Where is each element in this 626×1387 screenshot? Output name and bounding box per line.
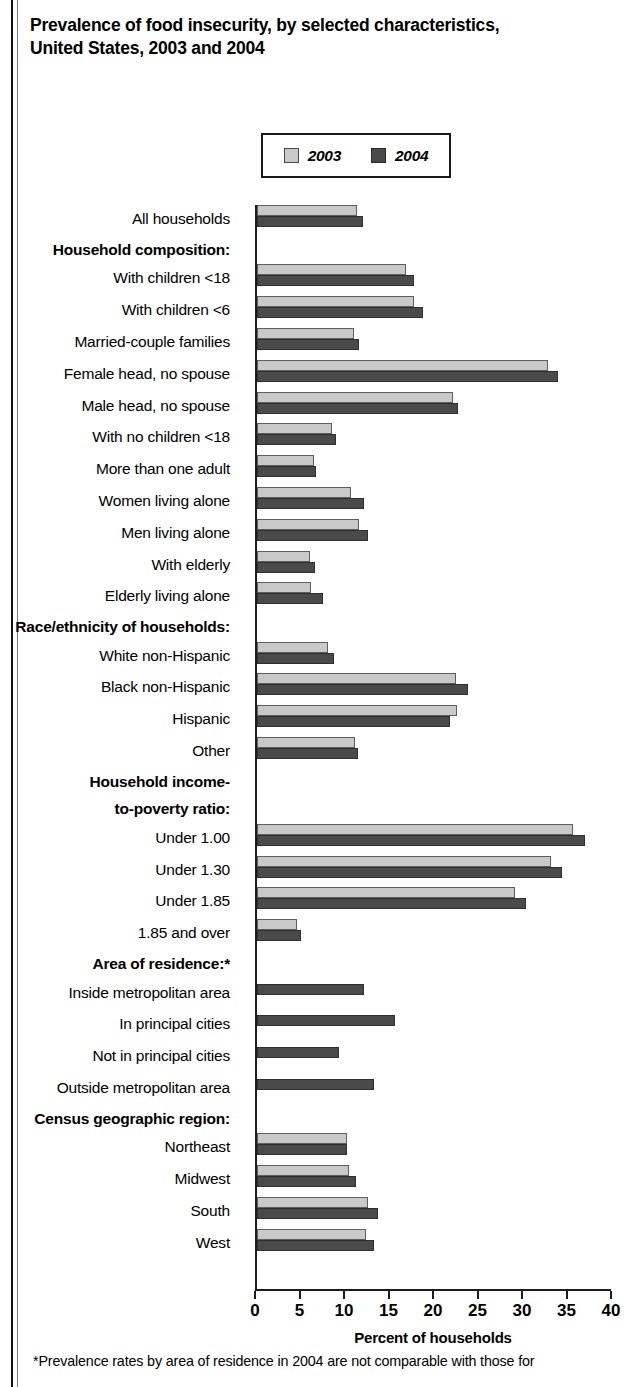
chart-section-header-label: Household income- — [0, 773, 230, 791]
chart-bar-2004 — [257, 1047, 339, 1058]
chart-bar-2003 — [257, 856, 551, 867]
chart-category-label: In principal cities — [0, 1015, 230, 1033]
chart-bar-2004 — [257, 1176, 356, 1187]
chart-category-row: Inside metropolitan area — [0, 979, 626, 1011]
chart-bar-2004 — [257, 530, 368, 541]
chart-bar-2004 — [257, 835, 585, 846]
chart-category-row: Northeast — [0, 1133, 626, 1165]
legend-swatch-2004-icon — [371, 148, 386, 163]
chart-section-header-label: Census geographic region: — [0, 1110, 230, 1128]
chart-category-row: With no children <18 — [0, 423, 626, 455]
chart-category-row: Men living alone — [0, 519, 626, 551]
x-axis-title: Percent of households — [255, 1329, 611, 1346]
chart-category-label: Under 1.30 — [0, 861, 230, 879]
chart-category-label: Male head, no spouse — [0, 397, 230, 415]
chart-bar-2003 — [257, 1165, 349, 1176]
chart-section-header-label: to-poverty ratio: — [0, 800, 230, 818]
chart-bar-2004 — [257, 466, 316, 477]
chart-bar-2003 — [257, 205, 357, 216]
page-title: Prevalence of food insecurity, by select… — [30, 14, 590, 60]
legend-item-2004: 2004 — [371, 147, 428, 165]
chart-bar-2003 — [257, 1133, 347, 1144]
x-axis-tick — [254, 1291, 256, 1299]
chart-category-label: Female head, no spouse — [0, 365, 230, 383]
bar-chart: 0510152025303540 Percent of households A… — [0, 205, 626, 1290]
chart-category-row: Hispanic — [0, 705, 626, 737]
x-axis-tick-label: 0 — [250, 1301, 259, 1321]
chart-category-row: Married-couple families — [0, 328, 626, 360]
x-axis-tick — [432, 1291, 434, 1299]
chart-bar-2004 — [257, 930, 301, 941]
chart-bar-2003 — [257, 582, 311, 593]
chart-category-row: All households — [0, 205, 626, 237]
chart-category-label: West — [0, 1234, 230, 1252]
page-title-line-2: United States, 2003 and 2004 — [30, 37, 590, 60]
legend-swatch-2003-icon — [284, 148, 299, 163]
x-axis-tick-label: 30 — [513, 1301, 532, 1321]
chart-bar-2003 — [257, 1197, 368, 1208]
chart-bar-2003 — [257, 328, 354, 339]
chart-bar-2004 — [257, 498, 364, 509]
chart-bar-2003 — [257, 824, 573, 835]
chart-category-row: White non-Hispanic — [0, 642, 626, 674]
x-axis-tick — [477, 1291, 479, 1299]
chart-bar-2003 — [257, 887, 515, 898]
chart-category-label: Inside metropolitan area — [0, 984, 230, 1002]
x-axis-tick-label: 40 — [602, 1301, 621, 1321]
chart-bar-2004 — [257, 403, 458, 414]
chart-category-row: Not in principal cities — [0, 1042, 626, 1074]
figure-page: Prevalence of food insecurity, by select… — [0, 0, 626, 1387]
chart-bar-2004 — [257, 867, 562, 878]
chart-category-row: More than one adult — [0, 455, 626, 487]
legend-label-2004: 2004 — [395, 147, 428, 165]
chart-bar-2003 — [257, 264, 406, 275]
chart-bar-2003 — [257, 392, 453, 403]
chart-section-header-label: Area of residence:* — [0, 955, 230, 973]
chart-category-row: With children <6 — [0, 296, 626, 328]
chart-bar-2003 — [257, 551, 310, 562]
chart-bar-2003 — [257, 919, 297, 930]
chart-category-label: More than one adult — [0, 460, 230, 478]
figure-footnote: *Prevalence rates by area of residence i… — [33, 1352, 618, 1371]
chart-bar-2004 — [257, 716, 450, 727]
chart-bar-2004 — [257, 748, 358, 759]
chart-bar-2004 — [257, 684, 468, 695]
chart-section-header-row: Race/ethnicity of households: — [0, 614, 626, 642]
chart-bar-2004 — [257, 984, 364, 995]
chart-category-label: With elderly — [0, 556, 230, 574]
chart-category-label: Northeast — [0, 1138, 230, 1156]
chart-category-row: Elderly living alone — [0, 582, 626, 614]
legend-label-2003: 2003 — [308, 147, 341, 165]
chart-category-label: With no children <18 — [0, 428, 230, 446]
chart-bar-2003 — [257, 737, 355, 748]
chart-bar-2004 — [257, 307, 423, 318]
chart-bar-2004 — [257, 898, 526, 909]
chart-category-label: Elderly living alone — [0, 587, 230, 605]
x-axis-tick-label: 10 — [335, 1301, 354, 1321]
x-axis-tick-label: 25 — [468, 1301, 487, 1321]
chart-bar-2004 — [257, 562, 315, 573]
chart-category-label: Outside metropolitan area — [0, 1079, 230, 1097]
chart-bar-2003 — [257, 296, 414, 307]
chart-category-label: South — [0, 1202, 230, 1220]
chart-section-header-label: Household composition: — [0, 241, 230, 259]
x-axis-tick-label: 5 — [295, 1301, 304, 1321]
chart-category-row: With elderly — [0, 551, 626, 583]
chart-bar-2003 — [257, 673, 456, 684]
chart-category-label: Other — [0, 742, 230, 760]
chart-category-label: Black non-Hispanic — [0, 678, 230, 696]
chart-bar-2004 — [257, 1079, 374, 1090]
chart-category-label: 1.85 and over — [0, 924, 230, 942]
chart-section-header-label: Race/ethnicity of households: — [0, 618, 230, 636]
chart-category-row: In principal cities — [0, 1010, 626, 1042]
chart-category-label: Under 1.00 — [0, 829, 230, 847]
chart-category-label: All households — [0, 210, 230, 228]
chart-category-row: Under 1.00 — [0, 824, 626, 856]
chart-bar-2004 — [257, 593, 323, 604]
chart-category-row: Black non-Hispanic — [0, 673, 626, 705]
chart-category-row: Female head, no spouse — [0, 360, 626, 392]
chart-legend: 2003 2004 — [261, 133, 451, 178]
chart-bar-2004 — [257, 216, 363, 227]
chart-category-row: With children <18 — [0, 264, 626, 296]
chart-category-label: Hispanic — [0, 710, 230, 728]
